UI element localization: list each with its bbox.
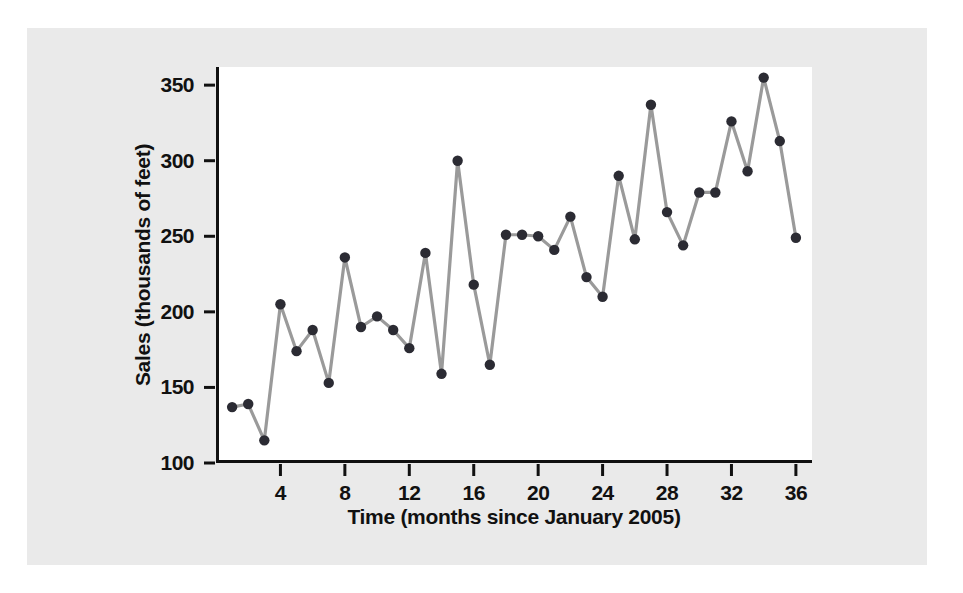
figure-root: 100150200250300350 4812162024283236 Time… xyxy=(0,0,963,593)
x-tick-label: 24 xyxy=(591,481,613,505)
plot-area xyxy=(216,67,812,463)
y-tick-label: 350 xyxy=(0,73,194,97)
x-tick-label: 4 xyxy=(275,481,286,505)
y-axis-title: Sales (thousands of feet) xyxy=(131,144,155,386)
y-tick-label: 200 xyxy=(0,300,194,324)
x-tick-label: 32 xyxy=(720,481,742,505)
x-tick-label: 8 xyxy=(339,481,350,505)
y-tick-label: 250 xyxy=(0,224,194,248)
x-axis-title: Time (months since January 2005) xyxy=(347,505,680,529)
y-tick-label: 300 xyxy=(0,149,194,173)
x-tick-label: 36 xyxy=(785,481,807,505)
x-tick-label: 16 xyxy=(463,481,485,505)
y-tick-label: 150 xyxy=(0,375,194,399)
x-tick-label: 12 xyxy=(398,481,420,505)
y-tick-label: 100 xyxy=(0,451,194,475)
x-tick-label: 20 xyxy=(527,481,549,505)
x-tick-label: 28 xyxy=(656,481,678,505)
